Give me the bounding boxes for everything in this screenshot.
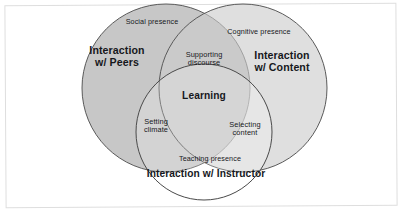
label-social-presence: Social presence (126, 18, 179, 26)
label-interaction-with-peers: Interaction w/ Peers (89, 45, 144, 69)
label-supporting-discourse: Supporting discourse (186, 51, 223, 68)
label-interaction-with-instructor: Interaction w/ Instructor (147, 168, 266, 179)
label-cognitive-presence: Cognitive presence (227, 28, 290, 36)
label-teaching-presence: Teaching presence (179, 155, 241, 163)
label-interaction-with-content: Interaction w/ Content (254, 50, 309, 74)
label-selecting-content: Selecting content (229, 121, 260, 138)
venn-diagram-figure: Social presence Cognitive presence Teach… (0, 0, 404, 214)
label-learning: Learning (182, 90, 226, 101)
label-setting-climate: Setting climate (144, 118, 168, 135)
venn-circles-svg (0, 0, 404, 214)
